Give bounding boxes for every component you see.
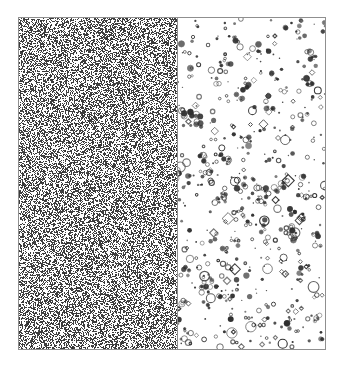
figure-frame — [18, 17, 326, 350]
caption-strip — [0, 353, 343, 371]
panel-dense-noise — [19, 18, 177, 349]
panel-sparse-speckle — [178, 18, 325, 349]
sparse-speckle-plot — [178, 18, 325, 349]
figure-root — [0, 0, 343, 371]
panel-divider-line — [177, 18, 178, 349]
dense-noise-canvas — [19, 18, 177, 349]
